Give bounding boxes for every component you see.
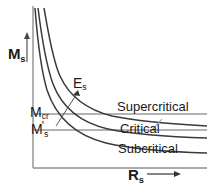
pointer-arrow-icon (56, 90, 80, 126)
x-axis-label: Rs (128, 167, 144, 185)
curve-label-subcritical: Subcritical (118, 142, 178, 155)
annotation-es: Es (73, 76, 87, 92)
y-axis-label: Ms (8, 46, 25, 64)
y-axis-label-subscript: s (20, 54, 25, 64)
x-axis-label-subscript: s (139, 175, 144, 185)
annotation-es-symbol: E (73, 75, 82, 91)
x-axis-label-symbol: R (128, 166, 139, 183)
plot-canvas (0, 0, 208, 194)
reference-label-ms-prime: M's (31, 121, 48, 138)
reference-label-mcr-symbol: M (30, 104, 42, 120)
reference-label-ms-prime-subscript: s (44, 129, 48, 139)
curve-label-supercritical: Supercritical (117, 100, 189, 113)
y-axis-label-symbol: M (8, 45, 20, 62)
curve-label-critical: Critical (120, 122, 160, 135)
reference-label-mcr: Mcr (30, 105, 49, 121)
annotation-es-subscript: s (82, 82, 86, 92)
figure-ms-vs-rs: Ms Rs Es Mcr M's Supercritical Critical … (0, 0, 208, 194)
reference-label-ms-prime-symbol: M (31, 121, 43, 137)
right-arrow-icon (147, 171, 181, 177)
